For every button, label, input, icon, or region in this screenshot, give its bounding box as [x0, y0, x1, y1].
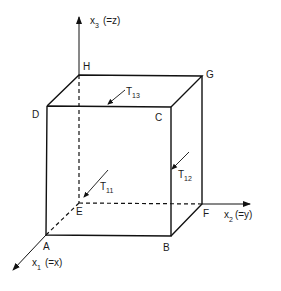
vertex-label-B: B [163, 242, 170, 253]
t12-arrow-icon [172, 152, 189, 169]
x1-axis-arrow [13, 235, 46, 270]
vertex-label-D: D [32, 109, 39, 120]
right-face [171, 76, 202, 236]
front-face [46, 106, 171, 236]
edge-EF [79, 203, 202, 204]
t13-arrow-icon [108, 90, 125, 104]
vertex-label-C: C [155, 112, 162, 123]
top-face [47, 75, 202, 107]
x1-axis-label: x1(=x) [32, 257, 62, 271]
t11-label: T11 [100, 181, 113, 194]
vertex-labels: H G D C E F A B [32, 61, 214, 253]
t12-label: T12 [178, 169, 192, 182]
vertex-label-F: F [203, 208, 209, 219]
vertex-label-H: H [83, 61, 90, 72]
vertex-label-G: G [206, 69, 214, 80]
edge-EA [46, 203, 79, 235]
x2-axis-label: x2(=y) [224, 209, 252, 223]
vertex-label-E: E [76, 206, 83, 217]
x3-axis-label: x3(=z) [90, 15, 120, 29]
vertex-label-A: A [43, 241, 50, 252]
visible-edges [46, 75, 202, 236]
t13-label: T13 [126, 86, 140, 99]
cube-diagram: x3(=z) x2(=y) x1(=x) H G D C E F A B T13… [0, 0, 281, 291]
